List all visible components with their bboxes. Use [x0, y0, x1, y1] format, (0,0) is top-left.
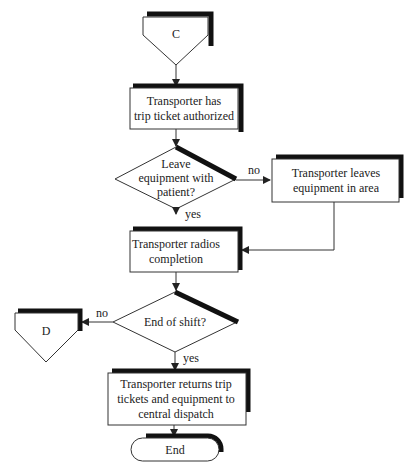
- decision2-yes-label: yes: [183, 351, 199, 365]
- arrow-leave-to-radios: [242, 202, 334, 250]
- decision2-no-label: no: [96, 306, 108, 320]
- decision1-yes-label: yes: [185, 207, 201, 221]
- step3-line2: tickets and equipment to: [117, 392, 235, 406]
- connector-c-label: C: [172, 27, 180, 41]
- step-returns-tickets: Transporter returns trip tickets and equ…: [108, 371, 248, 425]
- terminator-label: End: [165, 443, 184, 457]
- terminator-end: End: [131, 436, 221, 461]
- step-trip-ticket-authorized: Transporter has trip ticket authorized: [130, 86, 241, 132]
- step2-line2: completion: [149, 252, 203, 266]
- decision-leave-equipment: Leave equipment with patient?: [115, 147, 236, 209]
- step-radios-completion: Transporter radios completion: [130, 229, 240, 272]
- decision1-line3: patient?: [157, 185, 195, 199]
- connector-d-label: D: [42, 324, 51, 338]
- decision1-line2: equipment with: [139, 171, 214, 185]
- flowchart-canvas: C Transporter has trip ticket authorized…: [0, 0, 414, 474]
- decision2-label: End of shift?: [144, 315, 206, 329]
- decision-end-of-shift: End of shift?: [113, 292, 238, 352]
- step-leaves-equipment: Transporter leaves equipment in area: [272, 157, 401, 202]
- step3-line3: central dispatch: [138, 407, 214, 421]
- step-leave-line1: Transporter leaves: [292, 166, 381, 180]
- decision1-no-label: no: [248, 163, 260, 177]
- decision1-line1: Leave: [161, 157, 190, 171]
- step-leave-line2: equipment in area: [293, 181, 380, 195]
- connector-c: C: [143, 14, 211, 65]
- connector-d: D: [15, 311, 80, 362]
- step1-line1: Transporter has: [147, 94, 222, 108]
- step2-line1: Transporter radios: [132, 237, 220, 251]
- step3-line1: Transporter returns trip: [120, 377, 232, 391]
- step1-line2: trip ticket authorized: [134, 109, 234, 123]
